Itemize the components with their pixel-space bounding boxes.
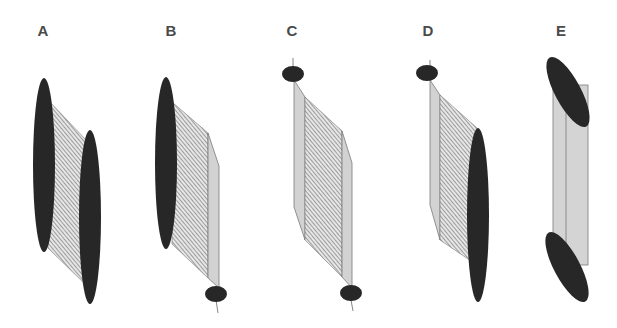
- panel-d-drawing: [416, 60, 489, 302]
- panel-label-a: A: [38, 23, 49, 38]
- panel-c-left-gray-strip: [294, 80, 305, 240]
- panel-c-bottom-axis-line: [351, 300, 353, 311]
- panel-label-b: B: [166, 23, 177, 38]
- panel-c-drawing: [282, 58, 362, 311]
- diagram-figure: A B C D E: [0, 0, 617, 328]
- panel-b-hatched-surface: [172, 102, 208, 278]
- panel-d-large-ellipse: [467, 128, 489, 302]
- panel-label-d: D: [423, 23, 434, 38]
- panel-a-drawing: [33, 78, 101, 304]
- panel-c-right-gray-strip: [342, 131, 352, 288]
- panel-a-right-ellipse: [79, 130, 101, 304]
- panel-a-left-ellipse: [33, 78, 55, 252]
- panel-c-bottom-ellipse: [340, 285, 362, 301]
- panel-label-e: E: [556, 23, 566, 38]
- panel-label-c: C: [287, 23, 298, 38]
- panel-e-drawing: [537, 51, 598, 307]
- diagram-canvas: [0, 0, 617, 328]
- panel-b-small-ellipse: [205, 286, 227, 302]
- panel-d-small-ellipse: [416, 65, 438, 81]
- panel-b-gray-strip: [208, 133, 219, 288]
- panel-c-hatched-surface: [305, 97, 342, 277]
- panel-b-drawing: [155, 77, 227, 313]
- panel-d-gray-strip: [430, 80, 440, 240]
- panel-c-top-ellipse: [282, 66, 304, 82]
- panel-b-large-ellipse: [155, 77, 177, 249]
